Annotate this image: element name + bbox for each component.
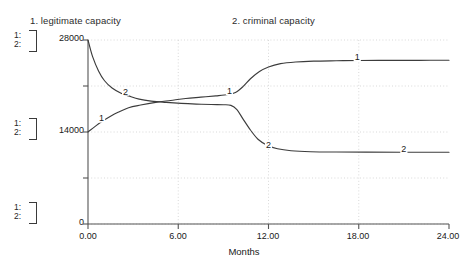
x-axis-ticks	[88, 224, 449, 229]
curve-label-2-5: 2	[401, 144, 406, 154]
curve-series-1	[88, 60, 449, 132]
curve-label-2-1: 2	[123, 87, 128, 97]
gridlines	[88, 40, 449, 224]
curve-label-1-0: 1	[99, 113, 104, 123]
curve-label-1-2: 1	[227, 86, 232, 96]
y-axis-ticks	[83, 40, 88, 224]
plot-area: 121212	[0, 0, 460, 270]
axis-lines	[88, 40, 449, 224]
curve-label-2-3: 2	[266, 140, 271, 150]
chart-canvas: 1. legitimate capacity 2. criminal capac…	[0, 0, 460, 270]
curve-annotations: 121212	[98, 52, 408, 154]
curve-label-1-4: 1	[355, 52, 360, 62]
